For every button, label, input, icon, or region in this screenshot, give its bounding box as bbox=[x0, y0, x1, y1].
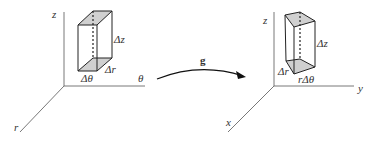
left-box-top-face bbox=[78, 11, 112, 25]
right-delta-z-label: Δz bbox=[316, 37, 328, 49]
right-z-label: z bbox=[262, 14, 268, 26]
arrow-head-icon bbox=[236, 71, 246, 79]
right-axes bbox=[228, 12, 354, 132]
left-box bbox=[78, 11, 112, 71]
left-r-label: r bbox=[14, 121, 19, 133]
right-box bbox=[285, 12, 315, 74]
left-z-label: z bbox=[51, 8, 57, 20]
mapping-arrow bbox=[157, 70, 246, 79]
left-delta-theta-label: Δθ bbox=[80, 72, 93, 84]
right-x-axis bbox=[228, 86, 274, 132]
right-box-bottom-face bbox=[286, 59, 315, 74]
right-y-label: y bbox=[357, 82, 363, 94]
diagram-canvas: z θ r Δz Δr Δθ g z y x Δz Δr rΔθ bbox=[0, 0, 374, 143]
left-delta-z-label: Δz bbox=[113, 33, 125, 45]
left-r-axis bbox=[20, 86, 64, 132]
right-delta-r-label: Δr bbox=[277, 65, 289, 77]
right-r-delta-theta-label: rΔθ bbox=[298, 73, 315, 85]
diagram-svg: z θ r Δz Δr Δθ g z y x Δz Δr rΔθ bbox=[0, 0, 374, 143]
right-x-label: x bbox=[225, 116, 231, 128]
arrow-curve bbox=[157, 70, 243, 79]
right-box-edge bbox=[285, 15, 286, 61]
arrow-g-label: g bbox=[200, 54, 206, 66]
left-delta-r-label: Δr bbox=[104, 63, 116, 75]
left-theta-label: θ bbox=[138, 72, 144, 84]
